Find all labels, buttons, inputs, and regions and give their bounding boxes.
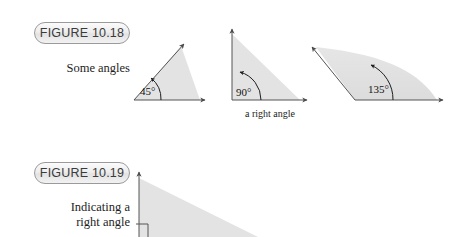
- right-angle-shaded-region: [139, 178, 258, 237]
- angle-90-label: 90°: [236, 86, 251, 98]
- figure-10-19-pill-label: FIGURE 10.19: [40, 166, 124, 180]
- figure-10-19-caption: Indicating a right angle: [20, 200, 130, 230]
- angle-45-label: 45°: [140, 85, 155, 97]
- figure-10-18-caption-line-1: Some angles: [20, 61, 130, 76]
- angle-90-diagram: 90°: [232, 29, 307, 100]
- figure-10-18-caption: Some angles: [20, 61, 130, 76]
- figure-illustration-page: 45° 90° 135° FIGURE 10.18 Some an: [0, 0, 465, 237]
- figure-10-18-pill: FIGURE 10.18: [34, 22, 130, 44]
- figure-10-19-caption-line-1: Indicating a: [20, 200, 130, 215]
- figure-10-19-pill: FIGURE 10.19: [34, 162, 130, 184]
- right-angle-marker-diagram: [136, 172, 258, 237]
- figure-10-18-pill-label: FIGURE 10.18: [40, 26, 124, 40]
- angle-45-diagram: 45°: [134, 44, 205, 100]
- figure-10-19-caption-line-2: right angle: [20, 215, 130, 230]
- angle-90-sub-caption: a right angle: [220, 108, 320, 119]
- angle-135-label: 135°: [368, 83, 389, 95]
- angle-135-diagram: 135°: [312, 47, 443, 100]
